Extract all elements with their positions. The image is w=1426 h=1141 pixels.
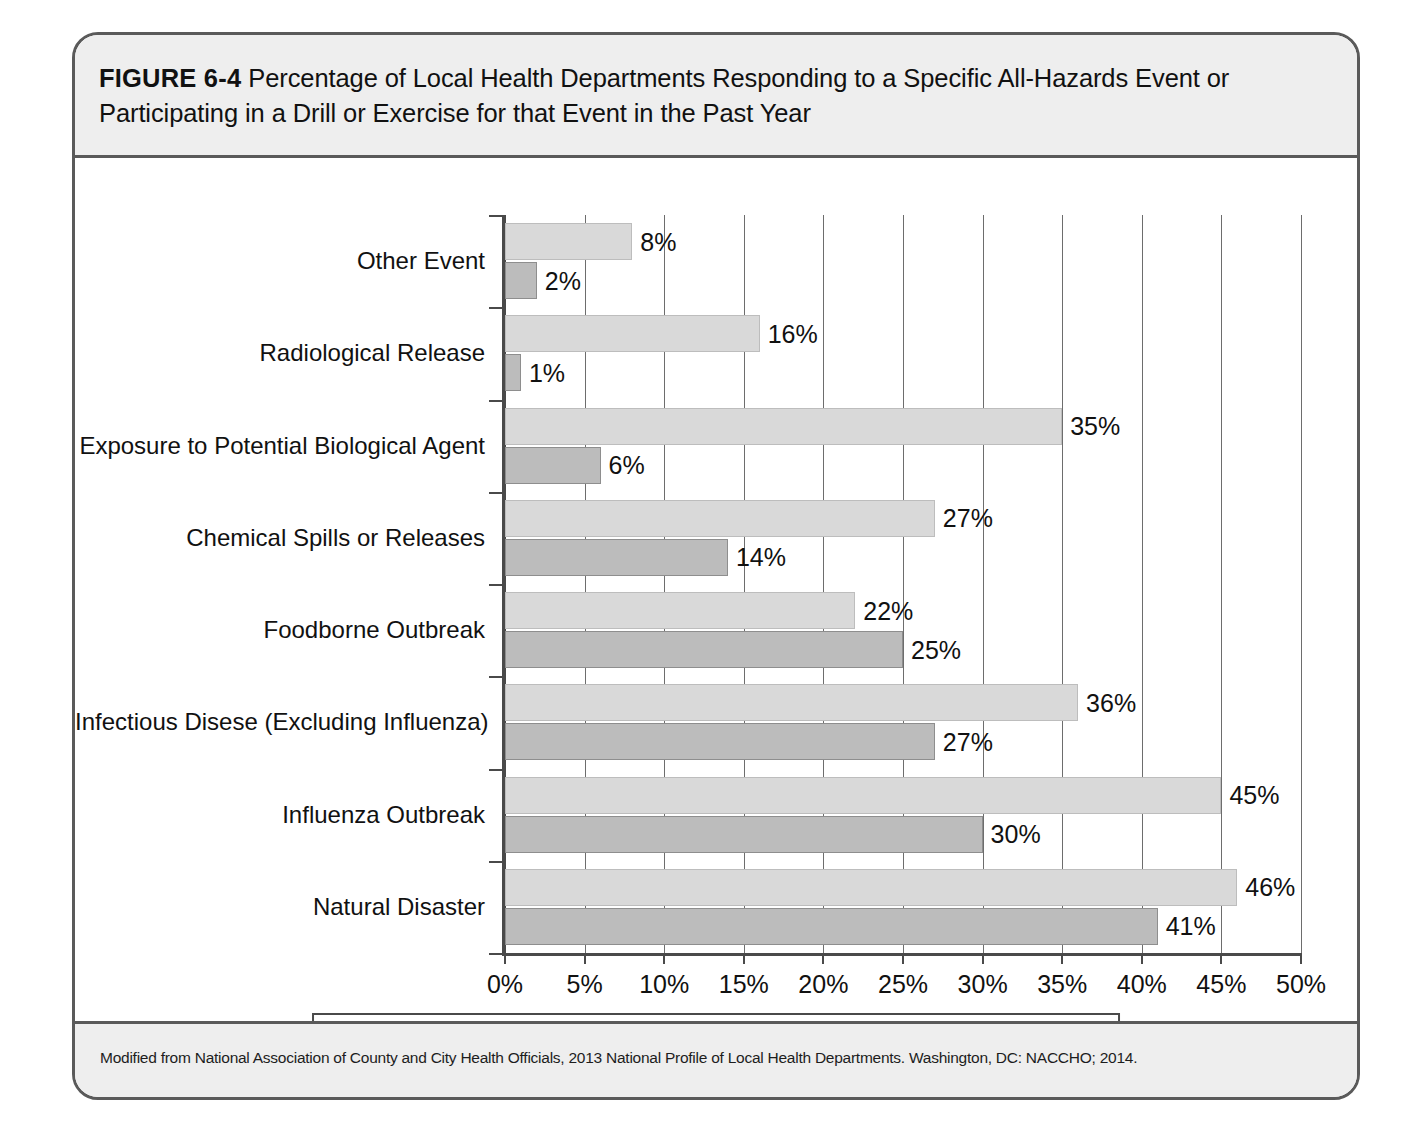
y-axis-tick <box>489 584 503 586</box>
x-tick-label-35%: 35% <box>1037 970 1087 999</box>
bar-7-series-0 <box>505 869 1237 906</box>
x-tick-45% <box>1220 953 1222 964</box>
bar-0-series-0 <box>505 223 632 260</box>
bar-value-4-series-1: 25% <box>911 635 961 664</box>
bar-5-series-0 <box>505 684 1078 721</box>
category-label-0: Other Event <box>75 247 485 275</box>
gridline-35% <box>1062 215 1063 953</box>
x-tick-label-0%: 0% <box>487 970 523 999</box>
category-label-4: Foodborne Outbreak <box>75 616 485 644</box>
x-tick-10% <box>663 953 665 964</box>
category-label-3: Chemical Spills or Releases <box>75 524 485 552</box>
x-tick-0% <box>504 953 506 964</box>
gridline-50% <box>1301 215 1302 953</box>
category-label-7: Natural Disaster <box>75 893 485 921</box>
bar-1-series-1 <box>505 354 521 391</box>
y-axis-tick <box>489 400 503 402</box>
x-tick-label-10%: 10% <box>639 970 689 999</box>
bar-value-0-series-1: 2% <box>545 266 581 295</box>
bar-value-6-series-0: 45% <box>1229 781 1279 810</box>
bar-6-series-0 <box>505 777 1221 814</box>
x-tick-label-20%: 20% <box>798 970 848 999</box>
bar-4-series-0 <box>505 592 855 629</box>
gridline-40% <box>1142 215 1143 953</box>
figure-source-text: Modified from National Association of Co… <box>100 1049 1137 1067</box>
y-axis-tick <box>489 492 503 494</box>
y-axis-tick <box>489 307 503 309</box>
figure-source-band: Modified from National Association of Co… <box>75 1021 1357 1097</box>
y-axis-tick <box>489 861 503 863</box>
x-tick-40% <box>1141 953 1143 964</box>
bar-7-series-1 <box>505 908 1158 945</box>
bar-value-7-series-0: 46% <box>1245 873 1295 902</box>
y-axis-tick <box>489 953 503 955</box>
bar-value-4-series-0: 22% <box>863 596 913 625</box>
x-tick-15% <box>743 953 745 964</box>
x-tick-30% <box>982 953 984 964</box>
figure-caption-text: Percentage of Local Health Departments R… <box>99 64 1229 127</box>
bar-value-2-series-0: 35% <box>1070 412 1120 441</box>
x-tick-label-45%: 45% <box>1196 970 1246 999</box>
gridline-45% <box>1221 215 1222 953</box>
gridline-30% <box>983 215 984 953</box>
bar-value-1-series-0: 16% <box>768 319 818 348</box>
bar-value-7-series-1: 41% <box>1166 912 1216 941</box>
x-tick-label-15%: 15% <box>719 970 769 999</box>
bar-value-1-series-1: 1% <box>529 358 565 387</box>
category-label-2: Exposure to Potential Biological Agent <box>75 432 485 460</box>
x-tick-20% <box>822 953 824 964</box>
category-label-5: Infectious Disese (Excluding Influenza) <box>75 708 485 736</box>
y-axis-tick <box>489 769 503 771</box>
figure-number: FIGURE 6-4 <box>99 64 241 92</box>
bar-value-0-series-0: 8% <box>640 227 676 256</box>
bar-value-3-series-1: 14% <box>736 543 786 572</box>
x-tick-label-40%: 40% <box>1117 970 1167 999</box>
bar-2-series-0 <box>505 408 1062 445</box>
bar-0-series-1 <box>505 262 537 299</box>
x-tick-5% <box>584 953 586 964</box>
x-tick-label-50%: 50% <box>1276 970 1326 999</box>
bar-value-3-series-0: 27% <box>943 504 993 533</box>
x-tick-label-25%: 25% <box>878 970 928 999</box>
bar-3-series-0 <box>505 500 935 537</box>
bar-6-series-1 <box>505 816 983 853</box>
figure-frame: FIGURE 6-4 Percentage of Local Health De… <box>72 32 1360 1100</box>
bar-value-5-series-0: 36% <box>1086 688 1136 717</box>
bar-value-2-series-1: 6% <box>609 451 645 480</box>
figure-caption-band: FIGURE 6-4 Percentage of Local Health De… <box>75 35 1357 158</box>
bar-2-series-1 <box>505 447 601 484</box>
y-axis-tick <box>489 215 503 217</box>
bar-1-series-0 <box>505 315 760 352</box>
x-tick-label-30%: 30% <box>958 970 1008 999</box>
bar-value-5-series-1: 27% <box>943 727 993 756</box>
x-tick-35% <box>1061 953 1063 964</box>
bar-5-series-1 <box>505 723 935 760</box>
figure-caption: FIGURE 6-4 Percentage of Local Health De… <box>99 61 1337 131</box>
bar-3-series-1 <box>505 539 728 576</box>
category-label-6: Influenza Outbreak <box>75 801 485 829</box>
x-tick-25% <box>902 953 904 964</box>
category-label-1: Radiological Release <box>75 339 485 367</box>
chart-plot-region: Other EventRadiological ReleaseExposure … <box>75 158 1357 1021</box>
bar-4-series-1 <box>505 631 903 668</box>
x-tick-50% <box>1300 953 1302 964</box>
bar-value-6-series-1: 30% <box>991 820 1041 849</box>
x-tick-label-5%: 5% <box>567 970 603 999</box>
y-axis-tick <box>489 676 503 678</box>
